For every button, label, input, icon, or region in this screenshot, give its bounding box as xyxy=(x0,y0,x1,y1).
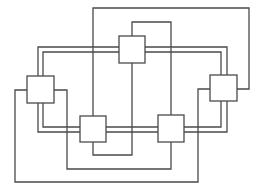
edge-bottomright-right-inner xyxy=(184,101,221,127)
node-left xyxy=(27,76,54,103)
edge-left-bottomright xyxy=(54,90,171,169)
network-diagram xyxy=(0,0,265,193)
node-bottom-right xyxy=(158,115,184,142)
node-right xyxy=(210,75,237,101)
edge-left-top-inner xyxy=(43,52,119,76)
edge-top-right-outer xyxy=(145,47,227,75)
edge-top-right-inner xyxy=(145,52,221,75)
edge-left-bottomleft-inner xyxy=(43,103,80,127)
node-bottom-left xyxy=(80,116,106,142)
node-top xyxy=(119,36,145,63)
